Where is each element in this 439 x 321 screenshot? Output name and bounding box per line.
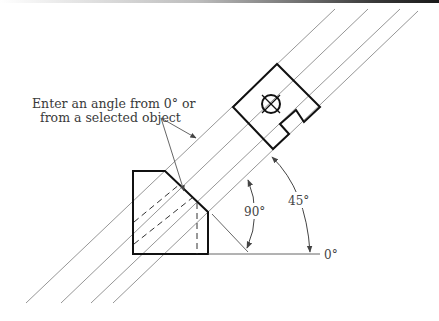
rotated-object-top	[233, 64, 320, 149]
construction-line-3	[91, 9, 400, 303]
construction-line-4	[113, 11, 418, 303]
construction-line-2	[61, 9, 368, 303]
perpendicular-reference-line	[212, 214, 248, 252]
ninety-degree-label: 90°	[244, 205, 265, 219]
rotated-object-outline	[233, 64, 320, 149]
annotation-line-1: Enter an angle from 0° or	[32, 96, 196, 111]
construction-line-1	[26, 9, 335, 303]
base-object-outline	[133, 171, 208, 254]
forty-five-degree-label: 45°	[288, 194, 309, 208]
annotation-line-2: from a selected object	[40, 110, 181, 125]
base-object	[133, 171, 208, 254]
zero-degree-label: 0°	[324, 248, 338, 262]
hidden-line-1	[134, 184, 180, 222]
construction-lines	[26, 9, 418, 303]
angle-construction-diagram: 90° 45° 0° Enter an angle from 0° or fro…	[0, 0, 439, 321]
